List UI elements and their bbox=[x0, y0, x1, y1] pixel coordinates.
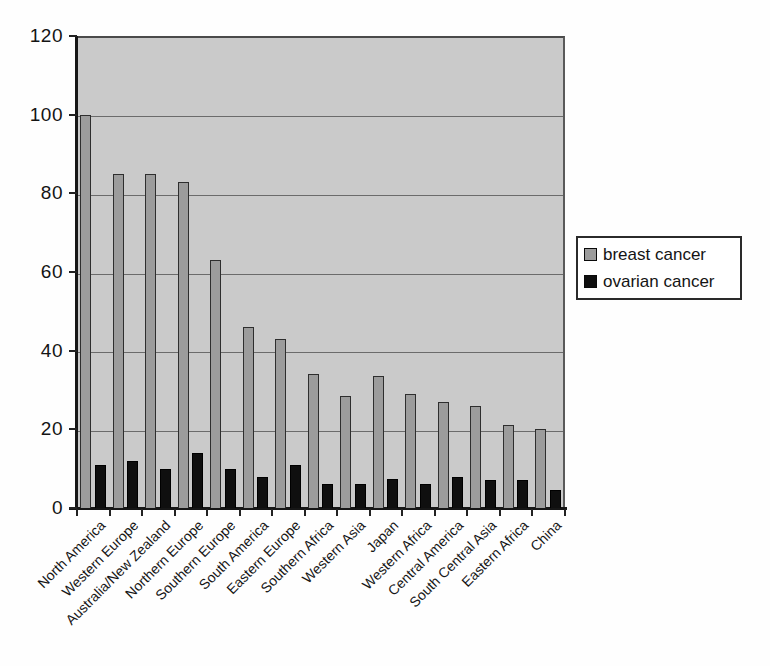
y-tick-label-120: 120 bbox=[11, 25, 63, 47]
y-axis-tick bbox=[69, 428, 77, 430]
y-tick-label-40: 40 bbox=[11, 340, 63, 362]
breast-cancer-swatch-icon bbox=[584, 248, 597, 261]
y-axis-tick bbox=[69, 350, 77, 352]
y-tick-label-20: 20 bbox=[11, 418, 63, 440]
x-axis-tick bbox=[109, 509, 111, 516]
y-tick-label-60: 60 bbox=[11, 261, 63, 283]
breast-cancer-bar bbox=[113, 174, 124, 508]
breast-cancer-bar bbox=[470, 406, 481, 508]
ovarian-cancer-bar bbox=[257, 477, 268, 508]
ovarian-cancer-bar bbox=[420, 484, 431, 508]
ovarian-cancer-bar bbox=[290, 465, 301, 508]
x-axis-tick bbox=[434, 509, 436, 516]
breast-cancer-bar bbox=[145, 174, 156, 508]
chart-figure: breast cancer ovarian cancer 02040608010… bbox=[0, 0, 770, 666]
ovarian-cancer-bar bbox=[355, 484, 366, 508]
ovarian-cancer-bar bbox=[192, 453, 203, 508]
legend-item-ovarian-cancer: ovarian cancer bbox=[584, 272, 734, 292]
y-axis-tick bbox=[69, 192, 77, 194]
x-axis-tick bbox=[531, 509, 533, 516]
x-axis-tick bbox=[564, 509, 566, 516]
x-axis-tick bbox=[271, 509, 273, 516]
legend-label-ovarian-cancer: ovarian cancer bbox=[603, 272, 715, 292]
breast-cancer-bar bbox=[535, 429, 546, 508]
x-axis-tick bbox=[239, 509, 241, 516]
ovarian-cancer-bar bbox=[550, 490, 561, 508]
ovarian-cancer-swatch-icon bbox=[584, 275, 597, 288]
ovarian-cancer-bar bbox=[225, 469, 236, 508]
legend-box: breast cancer ovarian cancer bbox=[576, 236, 742, 300]
legend-label-breast-cancer: breast cancer bbox=[603, 245, 706, 265]
breast-cancer-bar bbox=[308, 374, 319, 508]
breast-cancer-bar bbox=[438, 402, 449, 508]
x-axis-tick bbox=[76, 509, 78, 516]
ovarian-cancer-bar bbox=[452, 477, 463, 508]
ovarian-cancer-bar bbox=[485, 480, 496, 508]
breast-cancer-bar bbox=[275, 339, 286, 508]
x-axis-tick bbox=[369, 509, 371, 516]
breast-cancer-bar bbox=[503, 425, 514, 508]
breast-cancer-bar bbox=[373, 376, 384, 508]
x-axis-tick bbox=[336, 509, 338, 516]
x-axis-tick bbox=[206, 509, 208, 516]
breast-cancer-bar bbox=[340, 396, 351, 508]
x-category-label: China bbox=[527, 517, 564, 554]
gridline-y-100 bbox=[77, 116, 563, 117]
y-axis-tick bbox=[69, 271, 77, 273]
breast-cancer-bar bbox=[178, 182, 189, 508]
ovarian-cancer-bar bbox=[387, 479, 398, 509]
ovarian-cancer-bar bbox=[517, 480, 528, 508]
breast-cancer-bar bbox=[210, 260, 221, 508]
x-axis-tick bbox=[401, 509, 403, 516]
x-axis-tick bbox=[304, 509, 306, 516]
y-axis-tick bbox=[69, 35, 77, 37]
breast-cancer-bar bbox=[80, 115, 91, 508]
x-axis-tick bbox=[174, 509, 176, 516]
breast-cancer-bar bbox=[405, 394, 416, 508]
breast-cancer-bar bbox=[243, 327, 254, 508]
y-axis-tick bbox=[69, 114, 77, 116]
y-tick-label-100: 100 bbox=[11, 104, 63, 126]
ovarian-cancer-bar bbox=[127, 461, 138, 508]
ovarian-cancer-bar bbox=[95, 465, 106, 508]
x-axis-tick bbox=[499, 509, 501, 516]
ovarian-cancer-bar bbox=[322, 484, 333, 508]
y-tick-label-80: 80 bbox=[11, 182, 63, 204]
ovarian-cancer-bar bbox=[160, 469, 171, 508]
legend-item-breast-cancer: breast cancer bbox=[584, 245, 734, 265]
x-axis-tick bbox=[466, 509, 468, 516]
x-axis-tick bbox=[141, 509, 143, 516]
y-tick-label-0: 0 bbox=[11, 497, 63, 519]
